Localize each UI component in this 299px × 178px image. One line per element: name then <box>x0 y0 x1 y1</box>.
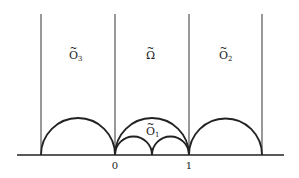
label-o3: O~3 <box>69 50 83 63</box>
hyperbolic-domain-diagram: O~3 Ω~ O~2 O~1 0 1 <box>0 0 299 178</box>
arc-center-small-right <box>152 137 189 155</box>
arc-center-small-left <box>115 137 152 155</box>
label-omega: Ω~ <box>146 50 155 61</box>
arc-right <box>189 119 262 156</box>
arc-left <box>41 118 115 155</box>
label-o1: O~1 <box>146 126 160 139</box>
tick-label-1: 1 <box>186 161 192 171</box>
tick-label-0: 0 <box>112 161 118 171</box>
label-o2: O~2 <box>219 50 233 63</box>
diagram-geometry <box>0 0 299 178</box>
